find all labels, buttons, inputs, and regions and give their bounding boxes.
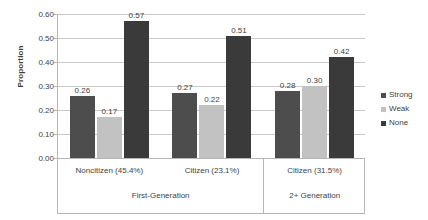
chart-legend: StrongWeakNone <box>381 88 428 130</box>
bar-value-label: 0.28 <box>280 81 296 90</box>
bar <box>70 96 95 158</box>
legend-swatch-icon <box>381 107 386 112</box>
legend-swatch-icon <box>381 121 386 126</box>
bar <box>302 86 327 158</box>
supergroup-label: 2+ Generation <box>289 191 340 200</box>
bar-group: 0.280.300.42 <box>263 14 366 158</box>
bar <box>199 105 224 158</box>
bar <box>172 93 197 158</box>
bar-value-label: 0.22 <box>204 95 220 104</box>
bar-value-label: 0.26 <box>75 86 91 95</box>
legend-item[interactable]: None <box>381 116 428 130</box>
legend-swatch-icon <box>381 93 386 98</box>
y-axis-tick-label: 0.30 <box>24 82 54 91</box>
bar <box>97 117 122 158</box>
category-label: Citizen (23.1%) <box>185 166 240 175</box>
bar-value-label: 0.17 <box>102 107 118 116</box>
y-axis-tick-label: 0.20 <box>24 106 54 115</box>
legend-label: None <box>389 119 408 127</box>
plot-area: 0.260.170.570.270.220.510.280.300.42 <box>57 14 365 158</box>
supergroup-separator <box>263 158 264 213</box>
supergroup-label: First-Generation <box>132 191 190 200</box>
y-axis-tick-label: 0.60 <box>24 10 54 19</box>
y-axis-tick-label: 0.50 <box>24 34 54 43</box>
y-axis-tick-label: 0.10 <box>24 130 54 139</box>
bar-value-label: 0.30 <box>307 76 323 85</box>
category-label: Noncitizen (45.4%) <box>76 166 144 175</box>
bar <box>329 57 354 158</box>
y-axis-tick-label: 0.40 <box>24 58 54 67</box>
bar-value-label: 0.57 <box>129 11 145 20</box>
bar-chart: Proportion 0.000.100.200.300.400.500.60 … <box>0 0 428 220</box>
bar <box>275 91 300 158</box>
category-axis-box: Noncitizen (45.4%)Citizen (23.1%)Citizen… <box>57 158 365 214</box>
bar-group: 0.270.220.51 <box>161 14 264 158</box>
bar-group: 0.260.170.57 <box>58 14 161 158</box>
bar-value-label: 0.51 <box>231 26 247 35</box>
legend-label: Weak <box>389 105 409 113</box>
legend-item[interactable]: Weak <box>381 102 428 116</box>
category-label: Citizen (31.5%) <box>287 166 342 175</box>
bar <box>124 21 149 158</box>
y-axis-tick-labels: 0.000.100.200.300.400.500.60 <box>24 0 54 220</box>
legend-item[interactable]: Strong <box>381 88 428 102</box>
y-axis-tick-label: 0.00 <box>24 154 54 163</box>
bar <box>226 36 251 158</box>
legend-label: Strong <box>389 91 413 99</box>
bars-layer: 0.260.170.570.270.220.510.280.300.42 <box>58 14 365 158</box>
bar-value-label: 0.27 <box>177 83 193 92</box>
bar-value-label: 0.42 <box>334 47 350 56</box>
